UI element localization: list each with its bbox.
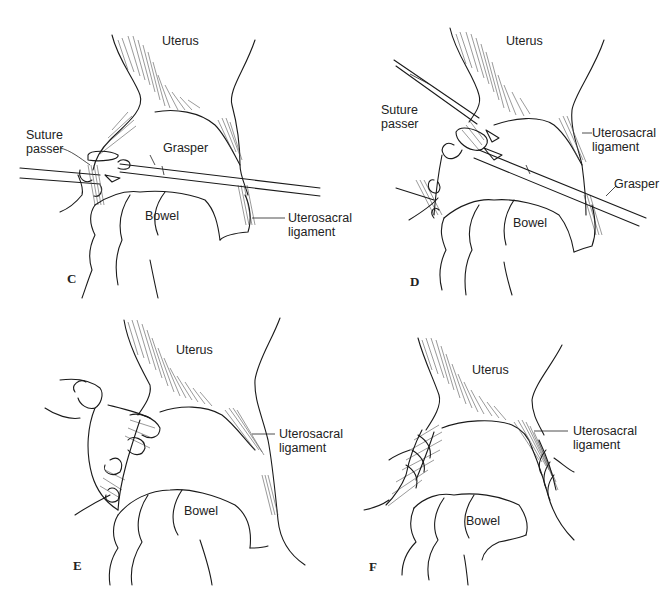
label-bowel: Bowel [184, 504, 218, 518]
label-uterus: Uterus [472, 363, 509, 377]
panel-d: Uterus Suture passer Grasper Bowel Utero… [334, 0, 668, 300]
panel-c: Uterus Suture passer Grasper Bowel Utero… [0, 0, 334, 300]
panel-e: Uterus Bowel Uterosacral ligament E [0, 300, 334, 591]
panel-letter: F [369, 559, 377, 575]
label-grasper: Grasper [614, 177, 659, 191]
panel-f: Uterus Bowel Uterosacral ligament F [334, 300, 668, 591]
label-grasper: Grasper [163, 141, 208, 155]
label-ligament-2: ligament [573, 438, 620, 452]
panel-letter: C [67, 271, 76, 287]
label-bowel: Bowel [145, 209, 179, 223]
label-ligament-1: Uterosacral [573, 424, 637, 438]
label-ligament-2: ligament [288, 225, 335, 239]
label-uterus: Uterus [162, 34, 199, 48]
label-ligament-1: Uterosacral [592, 126, 656, 140]
panel-letter: D [410, 274, 419, 290]
label-suture-passer-2: passer [381, 117, 419, 131]
label-suture-passer-1: Suture [26, 128, 63, 142]
label-ligament-2: ligament [279, 441, 326, 455]
label-suture-passer-1: Suture [381, 103, 418, 117]
label-ligament-2: ligament [592, 140, 639, 154]
label-bowel: Bowel [513, 216, 547, 230]
label-bowel: Bowel [466, 514, 500, 528]
label-suture-passer-2: passer [26, 142, 64, 156]
label-uterus: Uterus [176, 343, 213, 357]
panel-letter: E [73, 558, 82, 574]
label-uterus: Uterus [506, 34, 543, 48]
